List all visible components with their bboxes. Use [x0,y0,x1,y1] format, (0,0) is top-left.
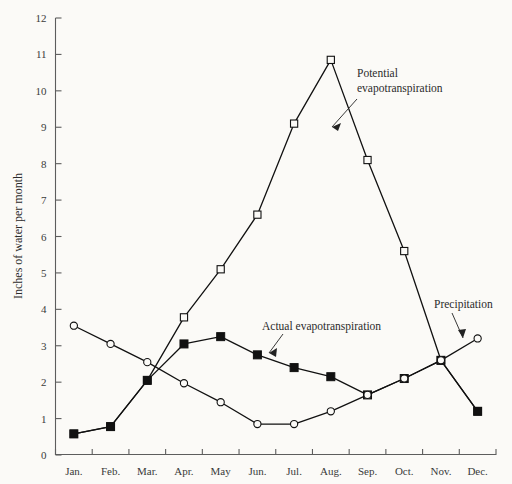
data-point [180,340,188,348]
y-tick-label: 11 [36,48,47,60]
data-point [107,340,114,347]
y-tick-label: 3 [41,340,47,352]
data-point [327,373,335,381]
x-tick-label-apr: Apr. [174,465,194,477]
data-point [290,364,298,372]
x-tick-label-dec: Dec. [467,465,488,477]
data-point [291,120,298,127]
data-point [291,420,298,427]
y-tick-label: 7 [41,194,47,206]
data-point [437,357,444,364]
x-tick-label-jan: Jan. [65,465,83,477]
y-tick-label: 0 [41,449,47,461]
data-point [401,375,408,382]
chart-figure: 0123456789101112 Inches of water per mon… [0,0,512,484]
x-tick-label-feb: Feb. [101,465,121,477]
data-point [217,333,225,341]
series-precipitation [70,322,481,428]
series-layer [70,56,482,438]
x-tick-label-nov: Nov. [430,465,451,477]
data-point [474,335,481,342]
y-tick-label: 4 [41,303,47,315]
annotation-precipitation-label: Precipitation [434,298,493,311]
data-point [254,211,261,218]
x-tick-label-may: May [211,465,232,477]
annotation-actual-label: Actual evapotranspiration [262,320,381,333]
y-tick-label: 6 [41,231,47,243]
y-tick-group: 0123456789101112 [36,12,62,461]
y-tick-label: 5 [41,267,47,279]
data-point [327,408,334,415]
annotation-potential-line2: evapotranspiration [357,82,443,95]
annotation-potential-line1: Potential [357,67,398,79]
annotation-actual-arrowhead [269,348,277,357]
data-point [217,399,224,406]
data-point [327,56,334,63]
data-point [217,266,224,273]
data-point [70,322,77,329]
y-axis: 0123456789101112 Inches of water per mon… [11,12,62,461]
data-point [364,391,371,398]
data-point [180,314,187,321]
y-tick-label: 10 [36,85,48,97]
data-point [70,430,78,438]
x-axis: Jan.Feb.Mar.Apr.MayJun.Jul.Aug.Sep.Oct.N… [56,449,497,477]
annotation-potential-evapotranspiration: Potential evapotranspiration [332,67,443,131]
data-point [143,376,151,384]
y-tick-label: 12 [36,12,47,24]
data-point [401,247,408,254]
chart-svg: 0123456789101112 Inches of water per mon… [0,0,512,484]
y-tick-label: 1 [41,413,47,425]
x-tick-label-jul: Jul. [286,465,302,477]
x-tick-label-oct: Oct. [395,465,414,477]
x-tick-label-sep: Sep. [358,465,378,477]
series-actual-evapotranspiration [70,333,482,438]
series-path [74,60,478,434]
data-point [253,351,261,359]
data-point [364,156,371,163]
series-path [74,326,478,424]
x-tick-label-aug: Aug. [320,465,342,477]
y-tick-label: 9 [41,121,47,133]
y-tick-label: 2 [41,376,47,388]
data-point [144,359,151,366]
y-axis-title: Inches of water per month [11,173,25,299]
x-tick-label-jun: Jun. [248,465,266,477]
data-point [474,407,482,415]
series-potential-evapotranspiration [70,56,481,437]
data-point [254,420,261,427]
data-point [180,380,187,387]
y-tick-label: 8 [41,158,47,170]
x-tick-label-mar: Mar. [137,465,158,477]
x-tick-labels: Jan.Feb.Mar.Apr.MayJun.Jul.Aug.Sep.Oct.N… [65,465,488,477]
annotation-actual-evapotranspiration: Actual evapotranspiration [262,320,381,357]
annotation-potential-arrowhead [332,123,341,131]
annotation-precipitation: Precipitation [434,298,493,338]
data-point [107,423,115,431]
